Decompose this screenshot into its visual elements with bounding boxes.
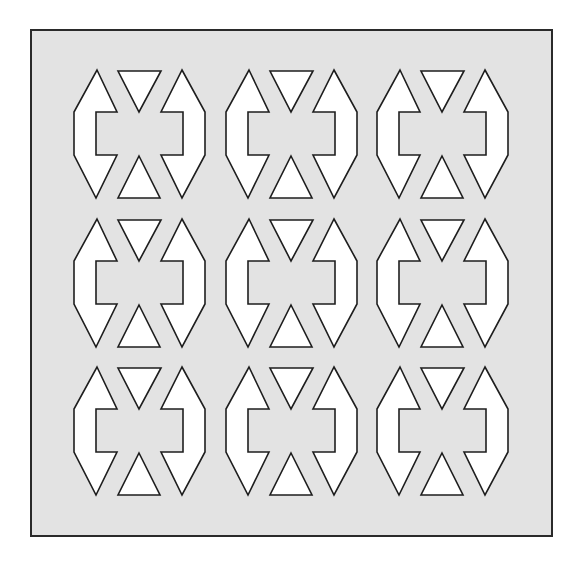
tile-pattern-diagram — [0, 0, 573, 561]
figure-canvas — [0, 0, 573, 561]
